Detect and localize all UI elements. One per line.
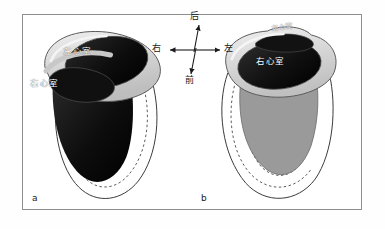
panel-b-letter: b <box>201 194 207 203</box>
panel-b-right-ventricle-label: 右心室 <box>256 57 285 66</box>
panel-a-left-ventricle-label: 左心室 <box>63 47 92 56</box>
panel-a-letter: a <box>32 194 38 203</box>
panel-a-right-ventricle-label: 右心室 <box>30 79 59 88</box>
compass-label-anterior: 前 <box>185 76 194 85</box>
compass-label-right: 右 <box>152 44 161 53</box>
compass-label-posterior: 后 <box>190 12 199 21</box>
heart-ventricle-figure: a <box>0 0 385 229</box>
compass-label-left: 左 <box>224 44 233 53</box>
orientation-compass: 后 前 右 左 <box>152 12 238 90</box>
arrow-posterior-direction <box>194 25 199 52</box>
